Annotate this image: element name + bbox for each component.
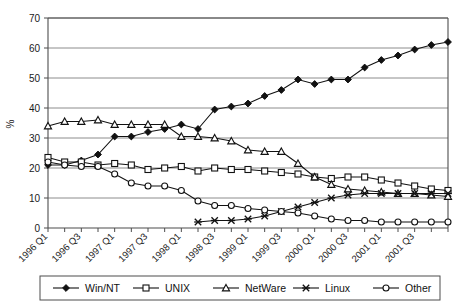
chart-legend: Win/NTUNIXNetWareLinuxOther — [40, 276, 440, 300]
legend-label: Other — [405, 282, 432, 294]
data-point-marker-open-square — [145, 167, 151, 173]
data-point-marker-open-square — [162, 165, 168, 171]
data-point-marker-open-circle — [262, 207, 268, 213]
y-tick-label: 70 — [29, 13, 41, 24]
data-point-marker-cross — [261, 213, 269, 219]
data-point-marker-open-square — [278, 170, 284, 176]
data-point-marker-cross — [211, 217, 219, 223]
data-point-marker-open-square — [295, 171, 301, 177]
data-point-marker-cross — [194, 219, 202, 225]
data-point-marker-open-triangle — [294, 160, 301, 166]
x-tick-label: 1996 Q3 — [49, 231, 83, 265]
data-point-marker-filled-diamond — [378, 57, 385, 64]
y-axis-label: % — [5, 119, 16, 128]
data-point-marker-open-circle — [278, 209, 284, 215]
data-point-marker-open-square — [143, 285, 149, 291]
data-point-marker-open-circle — [295, 210, 301, 216]
data-point-marker-filled-diamond — [395, 52, 402, 59]
data-point-marker-open-circle — [78, 164, 84, 170]
data-point-marker-open-circle — [362, 218, 368, 224]
data-point-marker-open-circle — [328, 216, 334, 222]
data-point-marker-open-circle — [378, 219, 384, 225]
legend-label: Linux — [325, 282, 351, 294]
x-tick-label: 1997 Q1 — [83, 231, 117, 265]
data-point-marker-filled-diamond — [295, 76, 302, 83]
y-axis-title: % — [5, 119, 16, 128]
data-point-marker-open-circle — [312, 213, 318, 219]
data-point-marker-open-square — [212, 165, 218, 171]
data-point-marker-open-circle — [428, 219, 434, 225]
x-tick-label: 1999 Q3 — [249, 231, 283, 265]
data-point-marker-open-square — [128, 162, 134, 168]
data-point-marker-open-circle — [412, 219, 418, 225]
x-tick-label: 2000 Q3 — [316, 231, 350, 265]
data-point-marker-cross — [328, 195, 336, 201]
data-point-marker-filled-diamond — [145, 129, 152, 136]
data-point-marker-open-square — [228, 167, 234, 173]
x-tick-label: 1998 Q3 — [183, 231, 217, 265]
data-point-marker-open-circle — [178, 188, 184, 194]
series-path — [48, 120, 448, 197]
axes — [44, 18, 448, 232]
data-point-marker-filled-diamond — [445, 39, 452, 46]
x-tick-label: 1998 Q1 — [149, 231, 183, 265]
data-point-marker-cross — [228, 217, 236, 223]
data-point-marker-filled-diamond — [245, 100, 252, 107]
data-point-marker-open-circle — [212, 203, 218, 209]
y-axis-tick-labels: 010203040506070 — [29, 13, 41, 234]
data-point-marker-cross — [244, 216, 252, 222]
x-tick-label: 1996 Q1 — [16, 231, 50, 265]
data-point-marker-open-circle — [112, 171, 118, 177]
y-tick-label: 50 — [29, 73, 41, 84]
data-point-marker-open-square — [362, 174, 368, 180]
series-netware — [44, 116, 451, 199]
data-point-marker-filled-diamond — [228, 103, 235, 110]
data-point-marker-filled-diamond — [328, 76, 335, 83]
data-point-marker-open-circle — [95, 164, 101, 170]
data-point-marker-open-square — [262, 168, 268, 174]
data-point-marker-open-circle — [45, 159, 51, 165]
x-tick-label: 2000 Q1 — [283, 231, 317, 265]
data-point-marker-cross — [294, 204, 302, 210]
data-point-marker-open-circle — [345, 218, 351, 224]
data-point-marker-open-square — [112, 161, 118, 167]
data-point-marker-open-circle — [145, 183, 151, 189]
data-point-marker-open-triangle — [244, 146, 251, 152]
data-point-marker-cross — [344, 192, 352, 198]
data-point-marker-open-square — [245, 167, 251, 173]
data-point-marker-filled-diamond — [128, 133, 135, 140]
data-point-marker-open-circle — [162, 183, 168, 189]
os-market-share-line-chart: 010203040506070 1996 Q11996 Q31997 Q1199… — [0, 0, 462, 307]
legend-label: UNIX — [165, 282, 190, 294]
data-point-marker-open-square — [378, 177, 384, 183]
data-point-marker-open-circle — [195, 198, 201, 204]
series-path — [48, 158, 448, 191]
data-point-marker-open-square — [395, 180, 401, 186]
data-point-marker-filled-diamond — [311, 81, 318, 88]
chart-container: 010203040506070 1996 Q11996 Q31997 Q1199… — [0, 0, 462, 307]
data-point-marker-open-square — [412, 183, 418, 189]
data-point-marker-open-circle — [395, 219, 401, 225]
legend-label: NetWare — [245, 282, 286, 294]
data-series — [44, 39, 451, 226]
y-tick-label: 40 — [29, 103, 41, 114]
data-point-marker-filled-diamond — [428, 42, 435, 49]
data-point-marker-open-triangle — [94, 116, 101, 122]
y-tick-label: 60 — [29, 43, 41, 54]
data-point-marker-open-circle — [445, 219, 451, 225]
y-tick-label: 10 — [29, 193, 41, 204]
y-tick-label: 20 — [29, 163, 41, 174]
data-point-marker-open-square — [178, 164, 184, 170]
data-point-marker-open-circle — [383, 285, 389, 291]
data-point-marker-filled-diamond — [178, 121, 185, 128]
x-tick-label: 2001 Q3 — [383, 231, 417, 265]
data-point-marker-open-circle — [245, 206, 251, 212]
y-tick-label: 30 — [29, 133, 41, 144]
series-unix — [45, 155, 451, 194]
x-tick-label: 1999 Q1 — [216, 231, 250, 265]
x-tick-label: 1997 Q3 — [116, 231, 150, 265]
data-point-marker-filled-diamond — [278, 87, 285, 94]
data-point-marker-open-circle — [228, 203, 234, 209]
data-point-marker-open-circle — [62, 162, 68, 168]
data-point-marker-filled-diamond — [411, 46, 418, 53]
